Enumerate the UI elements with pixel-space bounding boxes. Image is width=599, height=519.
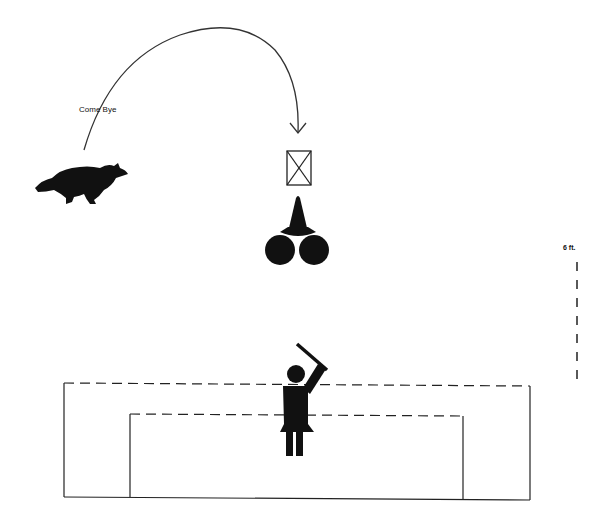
box-with-x-icon bbox=[287, 151, 311, 185]
diagram-canvas bbox=[0, 0, 599, 519]
sheep-circles-icon bbox=[265, 235, 329, 265]
dog-running-icon bbox=[35, 163, 128, 204]
traffic-cone-icon bbox=[280, 196, 316, 236]
handler-with-stick-icon bbox=[280, 344, 327, 456]
command-label: Come Bye bbox=[79, 105, 116, 114]
curved-arrow-path bbox=[84, 28, 298, 150]
distance-label: 6 ft. bbox=[563, 244, 575, 251]
